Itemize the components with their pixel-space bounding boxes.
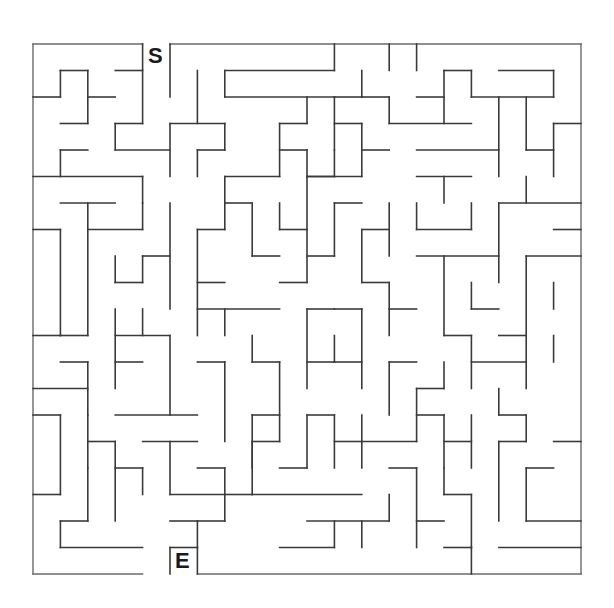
end-label: E [175, 550, 190, 572]
maze-board [0, 0, 614, 608]
start-label: S [148, 45, 163, 67]
